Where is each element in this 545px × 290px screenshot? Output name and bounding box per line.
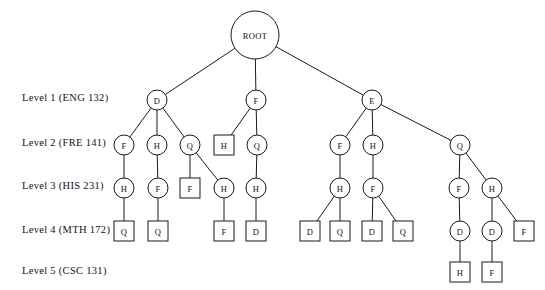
tree-node[interactable]: F bbox=[363, 178, 383, 198]
tree-node[interactable]: H bbox=[147, 135, 167, 155]
tree-edge bbox=[163, 108, 184, 137]
node-label: Q bbox=[400, 227, 406, 237]
tree-node[interactable]: H bbox=[214, 135, 234, 155]
tree-node[interactable]: H bbox=[330, 178, 350, 198]
tree-node[interactable]: Q bbox=[393, 221, 413, 241]
tree-node[interactable]: H bbox=[246, 178, 266, 198]
tree-diagram-canvas: ROOTDFEFHQHQFHQHFFHHHFFHQQFDDQDQDDFHF Le… bbox=[0, 0, 545, 290]
tree-edge bbox=[381, 105, 451, 141]
node-label: Q bbox=[254, 141, 260, 151]
node-label: Q bbox=[187, 141, 193, 151]
tree-node[interactable]: F bbox=[114, 135, 134, 155]
node-label: F bbox=[188, 184, 193, 194]
tree-edge bbox=[379, 196, 396, 221]
node-label: H bbox=[489, 184, 495, 194]
tree-node[interactable]: Q bbox=[148, 221, 168, 241]
tree-edge bbox=[165, 48, 235, 94]
node-label: F bbox=[156, 184, 161, 194]
tree-node[interactable]: D bbox=[482, 221, 502, 241]
tree-node[interactable]: F bbox=[482, 262, 502, 282]
node-label: H bbox=[221, 184, 227, 194]
tree-node[interactable]: H bbox=[450, 262, 470, 282]
node-label: D bbox=[307, 227, 313, 237]
node-label: D bbox=[369, 227, 375, 237]
tree-node[interactable]: F bbox=[148, 178, 168, 198]
tree-node[interactable]: D bbox=[362, 221, 382, 241]
tree-node[interactable]: F bbox=[514, 221, 534, 241]
node-label: F bbox=[522, 227, 527, 237]
tree-edge bbox=[372, 198, 373, 221]
tree-node[interactable]: F bbox=[246, 90, 266, 110]
node-label: F bbox=[254, 96, 259, 106]
tree-node[interactable]: D bbox=[300, 221, 320, 241]
node-label: H bbox=[370, 141, 376, 151]
tree-node[interactable]: F bbox=[180, 178, 200, 198]
tree-edge bbox=[466, 153, 486, 180]
tree-node[interactable]: Q bbox=[450, 135, 470, 155]
level-label-level-4: Level 4 (MTH 172) bbox=[22, 224, 110, 235]
node-label: F bbox=[222, 227, 227, 237]
node-label: E bbox=[369, 96, 374, 106]
tree-node[interactable]: Q bbox=[247, 135, 267, 155]
node-label: Q bbox=[337, 227, 343, 237]
tree-node[interactable]: Q bbox=[330, 221, 350, 241]
tree-node[interactable]: D bbox=[147, 90, 167, 110]
node-label: H bbox=[221, 141, 227, 151]
node-label: H bbox=[337, 184, 343, 194]
node-label: D bbox=[457, 227, 463, 237]
tree-edge bbox=[276, 47, 363, 95]
node-label: Q bbox=[121, 227, 127, 237]
node-label: F bbox=[490, 268, 495, 278]
node-label: ROOT bbox=[243, 31, 268, 41]
level-label-level-1: Level 1 (ENG 132) bbox=[22, 92, 108, 103]
tree-edge bbox=[459, 198, 460, 221]
node-label: F bbox=[122, 141, 127, 151]
tree-edge bbox=[196, 153, 218, 180]
node-label: F bbox=[338, 141, 343, 151]
level-label-level-5: Level 5 (CSC 131) bbox=[22, 265, 107, 276]
node-label: F bbox=[457, 184, 462, 194]
node-label: H bbox=[154, 141, 160, 151]
tree-node[interactable]: D bbox=[246, 221, 266, 241]
node-label: H bbox=[457, 268, 463, 278]
tree-edge bbox=[498, 196, 517, 221]
nodes-layer: ROOTDFEFHQHQFHQHFFHHHFFHQQFDDQDQDDFHF bbox=[114, 11, 534, 282]
tree-node[interactable]: F bbox=[330, 135, 350, 155]
tree-edge bbox=[346, 108, 366, 137]
tree-edge bbox=[231, 108, 250, 135]
tree-node[interactable]: H bbox=[363, 135, 383, 155]
tree-edge bbox=[317, 196, 334, 221]
tree-node[interactable]: Q bbox=[180, 135, 200, 155]
node-label: F bbox=[371, 184, 376, 194]
node-label: H bbox=[253, 184, 259, 194]
tree-edge bbox=[256, 110, 257, 135]
level-label-level-3: Level 3 (HIS 231) bbox=[22, 180, 104, 191]
node-label: Q bbox=[155, 227, 161, 237]
root-node[interactable]: ROOT bbox=[231, 11, 279, 59]
tree-node[interactable]: D bbox=[450, 221, 470, 241]
tree-node[interactable]: F bbox=[449, 178, 469, 198]
tree-node[interactable]: E bbox=[362, 90, 382, 110]
level-label-level-2: Level 2 (FRE 141) bbox=[22, 137, 106, 148]
tree-node[interactable]: H bbox=[214, 178, 234, 198]
node-label: D bbox=[489, 227, 495, 237]
tree-node[interactable]: F bbox=[214, 221, 234, 241]
node-label: H bbox=[121, 184, 127, 194]
tree-edge bbox=[459, 155, 460, 178]
tree-edge bbox=[157, 155, 158, 178]
tree-edge bbox=[372, 110, 373, 135]
tree-edge bbox=[256, 155, 257, 178]
node-label: D bbox=[253, 227, 259, 237]
tree-edge bbox=[130, 108, 151, 137]
tree-node[interactable]: H bbox=[114, 178, 134, 198]
tree-node[interactable]: Q bbox=[114, 221, 134, 241]
tree-node[interactable]: H bbox=[482, 178, 502, 198]
node-label: Q bbox=[457, 141, 463, 151]
node-label: D bbox=[154, 96, 160, 106]
